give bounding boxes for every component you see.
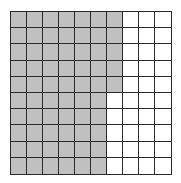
grid-cell-unshaded <box>139 44 155 60</box>
grid-cell-unshaded <box>123 93 139 109</box>
grid-cell-unshaded <box>139 109 155 125</box>
grid-cell-shaded <box>75 93 91 109</box>
grid-cell-unshaded <box>107 125 123 141</box>
grid-cell-shaded <box>107 28 123 44</box>
grid-cell-shaded <box>59 142 75 158</box>
grid-cell-unshaded <box>107 158 123 174</box>
grid-cell-shaded <box>27 158 43 174</box>
grid-cell-shaded <box>27 77 43 93</box>
grid-cell-shaded <box>43 61 59 77</box>
grid-cell-shaded <box>59 12 75 28</box>
grid-cell-unshaded <box>139 12 155 28</box>
grid-cell-shaded <box>75 28 91 44</box>
grid-cell-shaded <box>91 109 107 125</box>
grid-cell-shaded <box>59 158 75 174</box>
grid-cell-shaded <box>43 12 59 28</box>
grid-cell-shaded <box>59 28 75 44</box>
grid-cell-unshaded <box>123 158 139 174</box>
grid-cell-shaded <box>107 44 123 60</box>
grid-cell-shaded <box>91 61 107 77</box>
grid-cell-shaded <box>27 109 43 125</box>
grid-cell-shaded <box>43 109 59 125</box>
grid-cell-shaded <box>75 142 91 158</box>
grid-cell-unshaded <box>155 28 171 44</box>
grid-cell-unshaded <box>107 142 123 158</box>
grid-cell-shaded <box>91 142 107 158</box>
grid-cell-shaded <box>59 61 75 77</box>
grid-cell-shaded <box>91 125 107 141</box>
grid-cell-unshaded <box>155 93 171 109</box>
grid-cell-shaded <box>43 44 59 60</box>
grid-cell-shaded <box>75 61 91 77</box>
grid-cell-unshaded <box>139 142 155 158</box>
grid-cell-shaded <box>75 125 91 141</box>
grid-cell-shaded <box>107 77 123 93</box>
grid-cell-shaded <box>43 158 59 174</box>
grid-cell-shaded <box>43 77 59 93</box>
grid-cell-shaded <box>11 109 27 125</box>
grid-cell-unshaded <box>139 93 155 109</box>
grid-cell-shaded <box>59 77 75 93</box>
grid-cell-shaded <box>91 93 107 109</box>
grid-cell-shaded <box>59 93 75 109</box>
grid-cell-shaded <box>11 125 27 141</box>
grid-cell-unshaded <box>139 61 155 77</box>
grid-cell-unshaded <box>139 125 155 141</box>
grid-cell-unshaded <box>123 61 139 77</box>
grid-cell-unshaded <box>155 109 171 125</box>
grid-cell-shaded <box>27 44 43 60</box>
grid-cell-shaded <box>43 28 59 44</box>
grid-cell-shaded <box>91 12 107 28</box>
grid-cell-shaded <box>59 125 75 141</box>
grid-cell-unshaded <box>123 142 139 158</box>
grid-cell-shaded <box>107 12 123 28</box>
grid-cell-unshaded <box>123 125 139 141</box>
grid-cell-shaded <box>91 28 107 44</box>
grid-cell-shaded <box>75 158 91 174</box>
grid-cell-unshaded <box>123 44 139 60</box>
grid-cell-shaded <box>75 12 91 28</box>
grid-cell-shaded <box>11 93 27 109</box>
grid-cell-unshaded <box>107 109 123 125</box>
grid-cell-unshaded <box>155 12 171 28</box>
grid-cell-shaded <box>43 142 59 158</box>
grid-cell-shaded <box>11 158 27 174</box>
grid-cell-shaded <box>75 109 91 125</box>
grid-cell-unshaded <box>155 158 171 174</box>
grid-cell-shaded <box>43 93 59 109</box>
grid-cell-unshaded <box>123 28 139 44</box>
grid-cell-unshaded <box>155 44 171 60</box>
grid-cell-unshaded <box>123 12 139 28</box>
grid-cell-shaded <box>43 125 59 141</box>
grid-cell-shaded <box>27 28 43 44</box>
grid-cell-shaded <box>11 61 27 77</box>
grid-cell-unshaded <box>139 158 155 174</box>
grid-cell-shaded <box>11 28 27 44</box>
grid-cell-shaded <box>75 77 91 93</box>
grid-cell-shaded <box>59 109 75 125</box>
grid-cell-shaded <box>59 44 75 60</box>
grid-cell-shaded <box>27 93 43 109</box>
grid-cell-unshaded <box>139 77 155 93</box>
grid-cell-shaded <box>91 158 107 174</box>
grid-cell-unshaded <box>123 77 139 93</box>
grid-cell-shaded <box>11 44 27 60</box>
grid-cell-unshaded <box>155 61 171 77</box>
grid-cell-shaded <box>11 12 27 28</box>
grid-cell-shaded <box>11 142 27 158</box>
grid-cell-unshaded <box>155 125 171 141</box>
grid-cell-shaded <box>27 125 43 141</box>
grid-cell-shaded <box>107 61 123 77</box>
grid-cell-unshaded <box>155 142 171 158</box>
grid-cell-shaded <box>91 44 107 60</box>
grid-cell-shaded <box>11 77 27 93</box>
grid-cell-unshaded <box>155 77 171 93</box>
grid-cell-shaded <box>91 77 107 93</box>
grid-cell-unshaded <box>139 28 155 44</box>
grid-cell-shaded <box>27 12 43 28</box>
hundred-grid <box>10 11 172 175</box>
grid-cell-unshaded <box>107 93 123 109</box>
grid-cell-shaded <box>27 61 43 77</box>
grid-cell-shaded <box>27 142 43 158</box>
grid-cell-unshaded <box>123 109 139 125</box>
